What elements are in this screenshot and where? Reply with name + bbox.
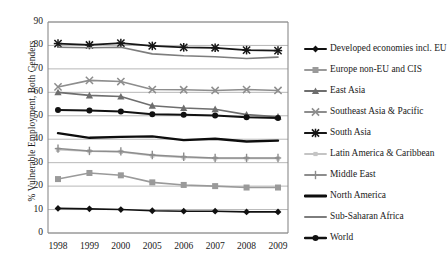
series-line: [54, 77, 281, 94]
legend-item[interactable]: Europe non-EU and CIS: [304, 59, 448, 80]
plot-frame: [48, 22, 288, 233]
legend-marker-icon: [304, 210, 327, 224]
legend-label: Developed economies incl. EU: [330, 43, 447, 54]
legend-item[interactable]: East Asia: [304, 80, 448, 101]
series-line: [58, 133, 278, 141]
series-line: [55, 205, 282, 215]
legend-marker-icon: [304, 168, 327, 182]
legend-label: South Asia: [330, 127, 371, 138]
legend-label: Latin America & Caribbean: [330, 148, 434, 159]
legend-item[interactable]: Sub-Saharan Africa: [304, 206, 448, 227]
y-tick-label: 50: [17, 110, 43, 120]
y-tick-label: 90: [17, 16, 43, 26]
legend-label: Europe non-EU and CIS: [330, 64, 422, 75]
legend-item[interactable]: Developed economies incl. EU: [304, 38, 448, 59]
legend-marker-icon: [304, 147, 327, 161]
y-tick-label: 70: [17, 63, 43, 73]
legend-item[interactable]: World: [304, 227, 448, 248]
legend-marker-icon: [304, 42, 327, 56]
legend-marker-icon: [304, 189, 327, 203]
legend-label: Southeast Asia & Pacific: [330, 106, 423, 117]
legend-label: Sub-Saharan Africa: [330, 211, 404, 222]
series-line: [55, 144, 281, 162]
legend-marker-icon: [304, 105, 327, 119]
legend-item[interactable]: North America: [304, 185, 448, 206]
series-line: [54, 39, 282, 55]
legend-item[interactable]: Middle East: [304, 164, 448, 185]
legend-label: East Asia: [330, 85, 365, 96]
legend-item[interactable]: Southeast Asia & Pacific: [304, 101, 448, 122]
legend-item[interactable]: Latin America & Caribbean: [304, 143, 448, 164]
y-tick-label: 10: [17, 204, 43, 214]
legend-label: Middle East: [330, 169, 376, 180]
y-tick-label: 30: [17, 157, 43, 167]
y-tick-label: 40: [17, 133, 43, 143]
legend-marker-icon: [304, 84, 327, 98]
series-line: [55, 170, 281, 191]
y-tick-label: 80: [17, 39, 43, 49]
y-tick-label: 20: [17, 180, 43, 190]
y-tick-label: 60: [17, 86, 43, 96]
legend-marker-icon: [304, 126, 327, 140]
legend-label: North America: [330, 190, 386, 201]
legend-marker-icon: [304, 63, 327, 77]
chart-legend: Developed economies incl. EUEurope non-E…: [304, 38, 448, 248]
legend-label: World: [330, 232, 353, 243]
vulnerable-employment-line-chart: % Vulnerable Employment, Both Genders 90…: [0, 0, 448, 270]
y-tick-label: 0: [17, 227, 43, 237]
x-tick-label: 2009: [258, 241, 298, 251]
legend-marker-icon: [304, 231, 327, 245]
legend-item[interactable]: South Asia: [304, 122, 448, 143]
gridlines: [48, 22, 288, 233]
